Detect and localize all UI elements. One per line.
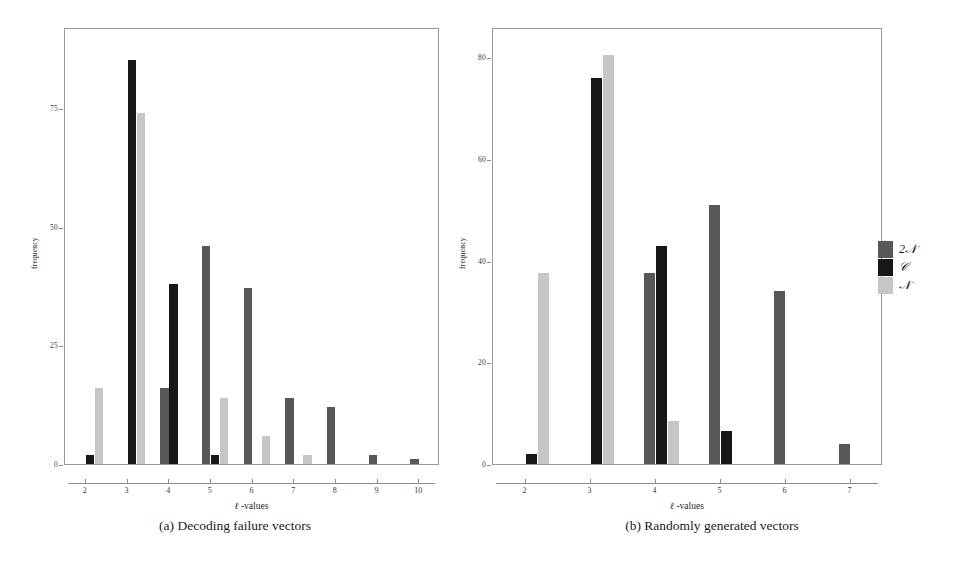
x-tick-label-a-3: 5	[198, 486, 222, 495]
x-tick-label-a-8: 10	[406, 486, 430, 495]
bar-a-l3-C	[128, 60, 137, 464]
legend-label-1: 𝒞	[899, 261, 908, 273]
y-tick-mark-b-3	[487, 160, 491, 161]
x-tick-mark-a-0	[85, 479, 86, 483]
x-tick-label-b-5: 7	[838, 486, 862, 495]
x-tick-mark-a-2	[168, 479, 169, 483]
x-tick-mark-b-1	[590, 479, 591, 483]
bar-a-l6-N	[262, 436, 271, 465]
caption-a: (a) Decoding failure vectors	[0, 518, 470, 534]
y-axis-label-b: frequency	[458, 237, 467, 269]
bar-a-l2-N	[95, 388, 104, 464]
x-axis-label-text-a: -values	[239, 501, 269, 511]
x-tick-label-b-2: 4	[643, 486, 667, 495]
bar-a-l8-2N	[327, 407, 336, 464]
y-tick-label-a-0: 0	[38, 460, 58, 469]
y-tick-label-a-2: 50	[38, 223, 58, 232]
bar-a-l3-N	[137, 113, 146, 465]
x-tick-label-a-7: 9	[365, 486, 389, 495]
bar-a-l4-2N	[160, 388, 169, 464]
bar-b-l3-N	[603, 55, 615, 464]
x-tick-mark-b-3	[720, 479, 721, 483]
x-tick-mark-a-1	[127, 479, 128, 483]
bar-layer-a	[65, 29, 438, 464]
y-tick-label-a-3: 75	[38, 104, 58, 113]
y-axis-label-a: frequency	[30, 237, 39, 269]
x-tick-label-a-4: 6	[240, 486, 264, 495]
y-tick-label-b-3: 60	[466, 155, 486, 164]
x-tick-mark-a-7	[377, 479, 378, 483]
y-tick-mark-a-0	[59, 465, 63, 466]
x-tick-mark-a-3	[210, 479, 211, 483]
y-tick-mark-a-3	[59, 109, 63, 110]
x-tick-mark-b-0	[525, 479, 526, 483]
bar-a-l10-2N	[410, 459, 419, 464]
x-tick-mark-b-4	[785, 479, 786, 483]
bar-b-l2-N	[538, 273, 550, 464]
y-tick-label-b-1: 20	[466, 358, 486, 367]
bar-b-l7-2N	[839, 444, 851, 464]
x-tick-label-b-0: 2	[513, 486, 537, 495]
x-tick-label-a-0: 2	[73, 486, 97, 495]
bar-a-l9-2N	[369, 455, 378, 465]
x-tick-mark-b-5	[850, 479, 851, 483]
y-tick-mark-a-1	[59, 346, 63, 347]
x-axis-label-a: ℓ -values	[192, 501, 312, 511]
plot-area-a	[64, 28, 439, 465]
bar-b-l4-2N	[644, 273, 656, 464]
caption-b: (b) Randomly generated vectors	[470, 518, 954, 534]
bar-b-l2-C	[526, 454, 538, 464]
bar-a-l7-N	[303, 455, 312, 465]
bar-b-l3-C	[591, 78, 603, 464]
x-axis-label-b: ℓ -values	[627, 501, 747, 511]
x-axis-line-b	[496, 483, 878, 484]
legend-swatch-icon-0	[878, 241, 893, 258]
bar-a-l7-2N	[285, 398, 294, 465]
bar-a-l2-C	[86, 455, 95, 465]
x-tick-label-b-1: 3	[578, 486, 602, 495]
x-tick-mark-a-6	[335, 479, 336, 483]
x-tick-mark-b-2	[655, 479, 656, 483]
bar-b-l5-2N	[709, 205, 721, 464]
legend-swatch-icon-1	[878, 259, 893, 276]
x-tick-mark-a-5	[293, 479, 294, 483]
legend: 2𝒩𝒞𝒩	[878, 240, 948, 294]
y-tick-label-b-2: 40	[466, 257, 486, 266]
y-tick-mark-b-4	[487, 58, 491, 59]
plot-area-b	[492, 28, 882, 465]
bar-a-l6-2N	[244, 288, 253, 464]
x-tick-label-a-1: 3	[115, 486, 139, 495]
x-tick-label-b-4: 6	[773, 486, 797, 495]
bar-a-l5-C	[211, 455, 220, 465]
legend-item-1: 𝒞	[878, 258, 948, 276]
bar-layer-b	[493, 29, 881, 464]
chart-panel-a: 02550752345678910 frequency ℓ -values	[0, 0, 470, 520]
x-axis-line-a	[68, 483, 435, 484]
x-axis-label-text-b: -values	[674, 501, 704, 511]
x-tick-label-a-5: 7	[281, 486, 305, 495]
bar-b-l5-C	[721, 431, 733, 464]
bar-a-l5-2N	[202, 246, 211, 465]
y-tick-mark-b-1	[487, 363, 491, 364]
bar-a-l4-C	[169, 284, 178, 465]
y-tick-label-b-0: 0	[466, 460, 486, 469]
bar-b-l4-N	[668, 421, 680, 464]
y-tick-label-a-1: 25	[38, 341, 58, 350]
x-tick-mark-a-8	[418, 479, 419, 483]
x-tick-label-a-2: 4	[156, 486, 180, 495]
legend-item-2: 𝒩	[878, 276, 948, 294]
figure-root: 02550752345678910 frequency ℓ -values 02…	[0, 0, 954, 575]
legend-item-0: 2𝒩	[878, 240, 948, 258]
legend-label-0: 2𝒩	[899, 243, 916, 255]
x-tick-label-a-6: 8	[323, 486, 347, 495]
y-tick-mark-b-0	[487, 465, 491, 466]
x-tick-label-b-3: 5	[708, 486, 732, 495]
y-tick-label-b-4: 80	[466, 53, 486, 62]
y-tick-mark-a-2	[59, 228, 63, 229]
bar-b-l6-2N	[774, 291, 786, 464]
legend-swatch-icon-2	[878, 277, 893, 294]
x-tick-mark-a-4	[252, 479, 253, 483]
y-tick-mark-b-2	[487, 262, 491, 263]
bar-a-l5-N	[220, 398, 229, 465]
bar-b-l4-C	[656, 246, 668, 465]
